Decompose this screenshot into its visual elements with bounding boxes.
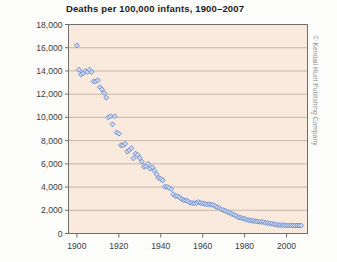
y-axis-ticks: 02,0004,0006,0008,00010,00012,00014,0001… [36,20,68,239]
svg-text:18,000: 18,000 [36,20,63,30]
publisher-credit: © Kendall Hunt Publishing Company [312,36,319,156]
svg-text:2000: 2000 [277,241,296,251]
svg-text:10,000: 10,000 [36,112,63,122]
svg-text:1900: 1900 [67,241,86,251]
chart-figure: Deaths per 100,000 infants, 1900–2007 02… [0,0,337,262]
chart-plot-area: 02,0004,0006,0008,00010,00012,00014,0001… [0,0,337,262]
svg-text:1920: 1920 [109,241,128,251]
svg-text:1980: 1980 [235,241,254,251]
svg-text:2,000: 2,000 [41,205,63,215]
svg-text:8,000: 8,000 [41,136,63,146]
svg-text:4,000: 4,000 [41,182,63,192]
svg-text:12,000: 12,000 [36,89,63,99]
x-axis-ticks: 190019201940196019802000 [67,234,296,251]
svg-text:0: 0 [58,229,63,239]
svg-text:1960: 1960 [193,241,212,251]
svg-text:16,000: 16,000 [36,43,63,53]
svg-text:14,000: 14,000 [36,66,63,76]
svg-text:6,000: 6,000 [41,159,63,169]
svg-text:1940: 1940 [151,241,170,251]
